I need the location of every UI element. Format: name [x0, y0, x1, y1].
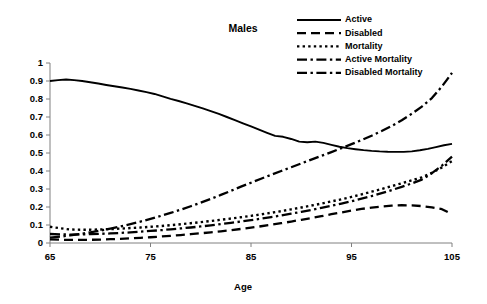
- series-line-active-mortality: [50, 157, 452, 235]
- series-line-active: [50, 80, 452, 152]
- legend-label-active-mortality: Active Mortality: [345, 54, 412, 64]
- legend-label-mortality: Mortality: [345, 41, 383, 51]
- y-tick-label: 0.2: [30, 201, 43, 212]
- chart-series: [50, 73, 452, 240]
- legend-label-disabled: Disabled: [345, 28, 383, 38]
- x-axis-ticks: 65758595105: [45, 243, 461, 262]
- y-axis-ticks: 00.10.20.30.40.50.60.70.80.91: [30, 57, 50, 248]
- y-tick-label: 0.3: [30, 183, 43, 194]
- x-tick-label: 105: [444, 251, 461, 262]
- x-tick-label: 65: [45, 251, 56, 262]
- legend-label-active: Active: [345, 14, 372, 24]
- chart-title-group: Males: [228, 22, 257, 34]
- page-title: Males: [228, 22, 257, 34]
- chart-container: Males ActiveDisabledMortalityActive Mort…: [0, 0, 487, 304]
- y-tick-label: 0.7: [30, 111, 43, 122]
- y-tick-label: 1: [38, 57, 44, 68]
- y-tick-label: 0.8: [30, 93, 43, 104]
- x-tick-label: 95: [346, 251, 357, 262]
- legend-label-disabled-mortality: Disabled Mortality: [345, 67, 423, 77]
- series-line-disabled-mortality: [50, 73, 452, 238]
- y-tick-label: 0.4: [30, 165, 44, 176]
- y-tick-label: 0.9: [30, 75, 43, 86]
- chart-legend: ActiveDisabledMortalityActive MortalityD…: [297, 14, 423, 77]
- x-axis-title: Age: [234, 281, 252, 292]
- y-tick-label: 0: [38, 237, 43, 248]
- y-tick-label: 0.5: [30, 147, 44, 158]
- y-tick-label: 0.6: [30, 129, 43, 140]
- y-tick-label: 0.1: [30, 219, 44, 230]
- males-line-chart: Males ActiveDisabledMortalityActive Mort…: [0, 0, 487, 304]
- x-tick-label: 85: [246, 251, 257, 262]
- series-line-disabled: [50, 205, 452, 240]
- x-tick-label: 75: [145, 251, 156, 262]
